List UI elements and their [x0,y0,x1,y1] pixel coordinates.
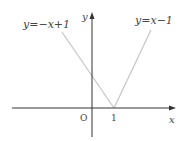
label-line-left: y=−x+1 [22,18,70,31]
y-axis-label: y [81,11,88,22]
label-line-right: y=x−1 [134,14,173,27]
x-axis-label: x [169,114,175,125]
line-neg-x-plus-1 [62,32,114,108]
y-axis-arrow-icon [90,12,95,19]
origin-label: O [80,113,87,123]
line-x-minus-1 [114,30,151,108]
x-axis-arrow-icon [169,106,176,111]
tick-label-1: 1 [111,113,117,123]
graph-figure: y=−x+1 y=x−1 y x O 1 [0,0,185,141]
graph-canvas: y=−x+1 y=x−1 y x O 1 [0,0,185,141]
